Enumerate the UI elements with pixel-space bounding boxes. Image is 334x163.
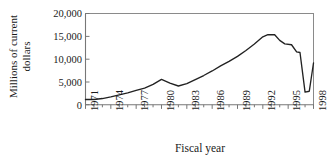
- x-axis-title: Fiscal year: [85, 142, 315, 154]
- x-tick-label-1995: 1995: [292, 90, 303, 111]
- x-tick-label-1989: 1989: [242, 90, 253, 111]
- x-tick-label-1980: 1980: [166, 90, 177, 111]
- x-tick-label-1971: 1971: [90, 90, 101, 111]
- x-tick-label-1998: 1998: [318, 90, 329, 111]
- x-axis-tick-labels: 1971197419771980198319861989199219951998: [0, 0, 334, 163]
- x-tick-label-1977: 1977: [140, 90, 151, 111]
- x-tick-label-1992: 1992: [267, 90, 278, 111]
- chart-figure: Millions of current dollars 20,000 15,00…: [0, 0, 334, 163]
- x-tick-label-1974: 1974: [115, 90, 126, 111]
- x-tick-label-1983: 1983: [191, 90, 202, 111]
- x-tick-label-1986: 1986: [216, 90, 227, 111]
